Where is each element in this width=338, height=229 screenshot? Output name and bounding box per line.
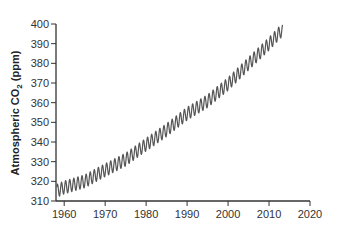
co2-series-line — [57, 25, 283, 196]
y-axis-label: Atmospheric CO2 (ppm) — [9, 50, 24, 175]
y-tick-label: 370 — [31, 77, 49, 89]
y-tick-label: 380 — [31, 57, 49, 69]
y-tick-label: 310 — [31, 195, 49, 207]
x-tick-label: 2020 — [298, 208, 322, 220]
x-tick-label: 1970 — [93, 208, 117, 220]
x-tick-label: 1990 — [175, 208, 199, 220]
y-axis-label-unit: (ppm) — [9, 50, 21, 84]
y-tick-label: 330 — [31, 156, 49, 168]
y-tick-label: 350 — [31, 116, 49, 128]
y-tick-label: 400 — [31, 18, 49, 30]
y-tick-label: 390 — [31, 38, 49, 50]
x-tick-label: 2010 — [257, 208, 281, 220]
x-tick-label: 1980 — [134, 208, 158, 220]
svg-text:Atmospheric CO2 (ppm): Atmospheric CO2 (ppm) — [9, 50, 24, 175]
co2-chart: Atmospheric CO2 (ppm) 310320330340350360… — [0, 0, 338, 229]
y-tick-label: 340 — [31, 136, 49, 148]
y-axis-label-main: Atmospheric CO — [9, 88, 21, 175]
x-tick-label: 2000 — [216, 208, 240, 220]
x-tick-label: 1960 — [52, 208, 76, 220]
y-tick-label: 360 — [31, 97, 49, 109]
y-tick-label: 320 — [31, 175, 49, 187]
